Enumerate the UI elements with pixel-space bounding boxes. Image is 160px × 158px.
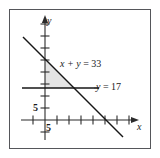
coordinate-plane	[0, 0, 160, 158]
annotation-y-17-rhs: = 17	[100, 81, 121, 92]
y-axis-label: y	[47, 16, 51, 26]
x-axis-label: x	[137, 122, 141, 132]
annotation-y-17: y = 17	[96, 82, 121, 92]
x-axis-tick-label-5: 5	[46, 123, 51, 133]
annotation-x-plus-y-33: x + y = 33	[60, 59, 101, 69]
annotation-x-plus-y-33-rhs: = 33	[81, 58, 102, 69]
graph-figure: x + y = 33 y = 17 y x 5 5	[0, 0, 160, 158]
annotation-x-plus-y-33-lhs: x + y	[60, 58, 81, 69]
y-axis-tick-label-5: 5	[33, 103, 38, 113]
